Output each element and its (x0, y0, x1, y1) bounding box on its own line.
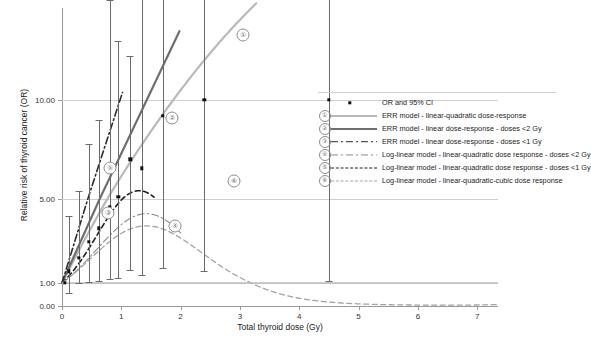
legend-label-marker: OR and 95% CI (382, 98, 433, 107)
circled-number-icon: ① (319, 110, 331, 122)
error-bar (118, 41, 119, 278)
legend-row-5: ⑤Log-linear model - linear-quadratic dos… (318, 161, 556, 174)
line-swatch (331, 115, 377, 117)
circled-number-icon: ⑥ (319, 175, 331, 187)
x-tick (240, 306, 241, 310)
error-bar-cap (75, 283, 82, 284)
x-tick (477, 306, 478, 310)
or-marker-icon (348, 101, 351, 104)
line-swatch (331, 180, 377, 181)
line-swatch (331, 167, 377, 168)
error-bar-cap (66, 293, 73, 294)
error-bar-cap (75, 191, 82, 192)
error-bar-cap (95, 120, 102, 121)
data-point (63, 281, 66, 284)
curve-6 (62, 226, 498, 305)
y-tick-label: 10.00 (35, 96, 55, 105)
curve-label-2: ② (165, 111, 178, 124)
error-bar-cap (201, 271, 208, 272)
error-bar (69, 216, 70, 294)
error-bar-cap (325, 281, 332, 282)
legend-number-5: ⑤ (318, 162, 331, 174)
error-bar-cap (95, 281, 102, 282)
legend-number-3: ③ (318, 136, 331, 148)
legend-key-2 (331, 123, 377, 134)
x-axis-line (62, 306, 498, 307)
line-swatch (331, 154, 377, 155)
x-tick-label: 7 (475, 312, 479, 321)
legend-label-5: Log-linear model - linear-quadratic dose… (382, 163, 591, 172)
legend-label-3: ERR model - linear dose-response - doses… (382, 137, 542, 146)
curve-label-4: ④ (168, 220, 181, 233)
error-bar-cap (127, 56, 134, 57)
curve-label-1: ① (236, 28, 249, 41)
x-tick-label: 6 (416, 312, 420, 321)
legend-label-1: ERR model - linear-quadratic dose-respon… (382, 111, 526, 120)
error-bar (163, 0, 164, 268)
error-bar-cap (106, 279, 113, 280)
x-tick (121, 306, 122, 310)
curve-label-3: ③ (102, 206, 115, 219)
line-swatch (331, 128, 377, 130)
data-point (77, 256, 80, 259)
legend-key-6 (331, 175, 377, 186)
x-tick-label: 5 (356, 312, 360, 321)
curve-label-5: ⑤ (103, 162, 116, 175)
legend-number-4: ④ (318, 149, 331, 161)
legend-number-2: ② (318, 123, 331, 135)
circled-number-icon: ③ (319, 136, 331, 148)
legend-key-5 (331, 162, 377, 173)
curve-label-6: ⑥ (228, 175, 241, 188)
error-bar-cap (106, 0, 113, 1)
x-tick-label: 0 (60, 312, 64, 321)
error-bar (89, 144, 90, 282)
error-bar (130, 56, 131, 270)
legend-row-4: ④Log-linear model - linear-quadratic dos… (318, 148, 556, 161)
error-bar (99, 120, 100, 281)
x-tick-label: 1 (119, 312, 123, 321)
y-tick-label: 5.00 (39, 195, 55, 204)
legend-row-2: ②ERR model - linear dose-response - dose… (318, 122, 556, 135)
error-bar-cap (66, 216, 73, 217)
circled-number-icon: ⑤ (319, 162, 331, 174)
x-tick (359, 306, 360, 310)
legend-row-marker: OR and 95% CI (318, 96, 556, 109)
legend-key-marker (331, 97, 377, 108)
data-point (117, 195, 120, 198)
y-axis-title: Relative risk of thyroid cancer (OR) (19, 35, 29, 275)
x-tick-label: 2 (178, 312, 182, 321)
legend-number-6: ⑥ (318, 175, 331, 187)
data-point (128, 158, 131, 161)
x-tick-label: 4 (297, 312, 301, 321)
error-bar-cap (139, 275, 146, 276)
legend-label-6: Log-linear model - linear-quadratic-cubi… (382, 176, 563, 185)
y-tick-label: 0.00 (39, 302, 55, 311)
error-bar-cap (85, 144, 92, 145)
error-bar (110, 0, 111, 279)
x-tick (418, 306, 419, 310)
x-tick (62, 306, 63, 310)
y-tick-label: 1.00 (39, 279, 55, 288)
circled-number-icon: ④ (319, 149, 331, 161)
line-swatch (331, 141, 377, 143)
legend-key-4 (331, 149, 377, 160)
legend-key-1 (331, 110, 377, 121)
error-bar-cap (115, 41, 122, 42)
x-axis-title: Total thyroid dose (Gy) (62, 322, 498, 332)
data-point (203, 98, 206, 101)
legend-number-1: ① (318, 110, 331, 122)
legend-divider (318, 92, 556, 93)
data-point (140, 167, 143, 170)
x-tick-label: 3 (238, 312, 242, 321)
error-bar (79, 191, 80, 283)
x-tick (181, 306, 182, 310)
x-tick (299, 306, 300, 310)
legend: OR and 95% CI ①ERR model - linear-quadra… (318, 96, 556, 187)
data-point (161, 114, 164, 117)
error-bar-cap (159, 268, 166, 269)
legend-row-3: ③ERR model - linear dose-response - dose… (318, 135, 556, 148)
circled-number-icon: ② (319, 123, 331, 135)
error-bar (142, 0, 143, 275)
data-point (87, 240, 90, 243)
legend-label-4: Log-linear model - linear-quadratic dose… (382, 150, 591, 159)
